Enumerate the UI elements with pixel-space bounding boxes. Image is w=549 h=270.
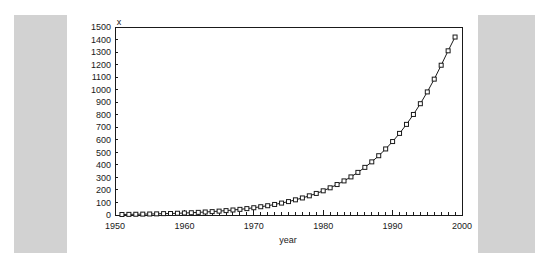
data-point-marker[interactable] [148,212,152,216]
data-point-marker[interactable] [293,198,297,202]
y-tick-label: 1300 [91,47,111,57]
y-tick-label: 200 [96,185,111,195]
y-tick-label: 100 [96,198,111,208]
data-point-marker[interactable] [432,77,436,81]
y-tick-label: 700 [96,122,111,132]
data-point-marker[interactable] [314,191,318,195]
data-point-marker[interactable] [217,209,221,213]
data-point-marker[interactable] [266,204,270,208]
data-point-marker[interactable] [335,183,339,187]
data-point-marker[interactable] [439,63,443,67]
data-point-marker[interactable] [300,196,304,200]
plot-background [115,27,462,215]
x-tick-label: 1990 [383,221,403,231]
data-point-marker[interactable] [245,207,249,211]
y-tick-label: 1000 [91,85,111,95]
data-point-marker[interactable] [127,212,131,216]
data-point-marker[interactable] [418,102,422,106]
data-point-marker[interactable] [446,49,450,53]
x-tick-label: 1960 [174,221,194,231]
y-tick-label: 1400 [91,35,111,45]
data-point-marker[interactable] [141,212,145,216]
data-point-marker[interactable] [404,122,408,126]
data-point-marker[interactable] [363,165,367,169]
data-point-marker[interactable] [224,209,228,213]
data-point-marker[interactable] [231,208,235,212]
data-point-marker[interactable] [196,210,200,214]
y-axis-tick-labels: 0100200300400500600700800900100011001200… [91,22,111,220]
x-tick-label: 2000 [452,221,472,231]
data-point-marker[interactable] [384,147,388,151]
line-chart[interactable]: 0100200300400500600700800900100011001200… [67,15,478,253]
data-point-marker[interactable] [328,186,332,190]
y-tick-label: 0 [106,210,111,220]
y-tick-label: 400 [96,160,111,170]
y-tick-label: 1500 [91,22,111,32]
x-axis-tick-labels: 195019601970198019902000 [105,221,472,231]
data-point-marker[interactable] [349,175,353,179]
data-point-marker[interactable] [377,154,381,158]
data-point-marker[interactable] [259,205,263,209]
data-point-marker[interactable] [391,140,395,144]
data-point-marker[interactable] [120,213,124,217]
data-point-marker[interactable] [307,194,311,198]
screenshot-root: 0100200300400500600700800900100011001200… [0,0,549,270]
data-point-marker[interactable] [155,212,159,216]
data-point-marker[interactable] [370,160,374,164]
data-point-marker[interactable] [182,211,186,215]
data-point-marker[interactable] [169,212,173,216]
data-point-marker[interactable] [321,189,325,193]
y-tick-label: 800 [96,110,111,120]
chart-svg: 0100200300400500600700800900100011001200… [67,15,478,253]
x-tick-label: 1970 [244,221,264,231]
data-point-marker[interactable] [280,201,284,205]
y-tick-label: 1200 [91,60,111,70]
data-point-marker[interactable] [162,212,166,216]
y-axis-title: x [117,17,122,27]
data-point-marker[interactable] [238,207,242,211]
data-point-marker[interactable] [203,210,207,214]
y-tick-label: 600 [96,135,111,145]
y-tick-label: 1100 [92,72,111,82]
data-point-marker[interactable] [273,202,277,206]
data-point-marker[interactable] [342,179,346,183]
y-tick-label: 900 [96,97,111,107]
x-axis-title: year [279,235,297,245]
data-point-marker[interactable] [134,212,138,216]
y-tick-label: 500 [96,148,111,158]
y-tick-label: 300 [96,173,111,183]
plot-card: 0100200300400500600700800900100011001200… [67,15,478,253]
data-point-marker[interactable] [411,112,415,116]
data-point-marker[interactable] [252,206,256,210]
data-point-marker[interactable] [287,200,291,204]
x-tick-label: 1980 [313,221,333,231]
data-point-marker[interactable] [210,210,214,214]
data-point-marker[interactable] [425,90,429,94]
data-point-marker[interactable] [189,211,193,215]
data-point-marker[interactable] [453,35,457,39]
data-point-marker[interactable] [356,170,360,174]
x-tick-label: 1950 [105,221,125,231]
data-point-marker[interactable] [398,131,402,135]
data-point-marker[interactable] [175,211,179,215]
